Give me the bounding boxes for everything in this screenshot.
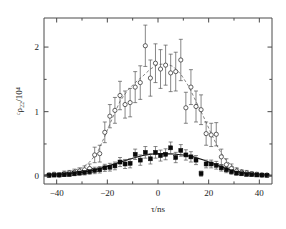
data-point-filled-square	[88, 170, 92, 174]
data-point-filled-square	[240, 172, 244, 176]
data-point-filled-square	[138, 158, 142, 162]
x-axis-tick-label: 20	[204, 188, 214, 198]
plot-frame	[44, 18, 272, 184]
data-point-open-circle	[93, 153, 97, 157]
data-point-filled-square	[250, 173, 254, 177]
x-axis-label: τ/ns	[151, 204, 166, 214]
data-point-open-circle	[209, 133, 213, 137]
x-axis-tick-label: 40	[255, 188, 265, 198]
data-point-filled-square	[93, 168, 97, 172]
data-point-filled-square	[219, 166, 223, 170]
y-axis-tick-label: 0	[35, 171, 40, 181]
data-point-open-circle	[113, 108, 117, 112]
data-point-filled-square	[52, 173, 56, 177]
data-point-open-circle	[103, 130, 107, 134]
data-point-open-circle	[143, 44, 147, 48]
data-point-open-circle	[189, 85, 193, 89]
data-point-filled-square	[204, 162, 208, 166]
data-point-filled-square	[118, 160, 122, 164]
data-point-filled-square	[108, 165, 112, 169]
data-point-filled-square	[164, 152, 168, 156]
data-point-filled-square	[103, 166, 107, 170]
data-point-open-circle	[174, 70, 178, 74]
open-circles-fit	[44, 64, 272, 175]
data-point-open-circle	[164, 63, 168, 67]
data-point-filled-square	[224, 168, 228, 172]
data-point-open-circle	[224, 163, 228, 167]
x-axis-tick-label: 0	[156, 188, 161, 198]
data-point-filled-square	[62, 173, 66, 177]
data-point-open-circle	[123, 102, 127, 106]
data-point-open-circle	[179, 58, 183, 62]
data-point-open-circle	[108, 114, 112, 118]
data-point-filled-square	[148, 157, 152, 161]
data-point-filled-square	[235, 171, 239, 175]
y-axis-tick-label: 1	[35, 107, 40, 117]
chart-canvas: −40−2002040012τ/nsᶜρ₂₂/10⁴	[0, 0, 286, 229]
data-point-filled-square	[199, 172, 203, 176]
data-point-filled-square	[153, 150, 157, 154]
data-point-filled-square	[159, 154, 163, 158]
data-point-filled-square	[67, 172, 71, 176]
y-axis-tick-label: 2	[35, 42, 40, 52]
data-point-filled-square	[113, 164, 117, 168]
data-point-filled-square	[209, 162, 213, 166]
data-points-layer	[47, 44, 269, 178]
data-point-filled-square	[77, 171, 81, 175]
data-point-filled-square	[128, 161, 132, 165]
data-point-filled-square	[245, 172, 249, 176]
data-point-filled-square	[229, 170, 233, 174]
data-point-filled-square	[179, 148, 183, 152]
fit-curves-layer	[44, 64, 272, 175]
data-point-open-circle	[204, 132, 208, 136]
data-point-open-circle	[194, 104, 198, 108]
data-point-open-circle	[128, 101, 132, 105]
data-point-open-circle	[98, 152, 102, 156]
data-point-open-circle	[118, 93, 122, 97]
data-point-filled-square	[143, 150, 147, 154]
data-point-filled-square	[72, 172, 76, 176]
data-point-open-circle	[138, 80, 142, 84]
data-point-filled-square	[133, 152, 137, 156]
axes-layer	[44, 18, 272, 184]
figure-panel: −40−2002040012τ/nsᶜρ₂₂/10⁴ ᶜρ₂₂/10⁴ τ/ns	[0, 0, 286, 229]
data-point-open-circle	[199, 108, 203, 112]
data-point-filled-square	[123, 162, 127, 166]
data-point-filled-square	[98, 168, 102, 172]
y-axis-label: ᶜρ₂₂/10⁴	[14, 87, 24, 115]
x-axis-tick-label: −40	[50, 188, 65, 198]
data-point-open-circle	[214, 132, 218, 136]
data-point-open-circle	[153, 61, 157, 65]
data-point-open-circle	[148, 76, 152, 80]
data-point-filled-square	[57, 173, 61, 177]
data-point-filled-square	[255, 173, 259, 177]
data-point-filled-square	[174, 156, 178, 160]
data-point-filled-square	[214, 163, 218, 167]
data-point-filled-square	[184, 153, 188, 157]
data-point-filled-square	[169, 146, 173, 150]
data-point-open-circle	[133, 85, 137, 89]
data-point-open-circle	[219, 155, 223, 159]
data-point-filled-square	[260, 173, 264, 177]
data-point-filled-square	[189, 155, 193, 159]
data-point-filled-square	[83, 170, 87, 174]
data-point-open-circle	[169, 71, 173, 75]
data-point-filled-square	[194, 158, 198, 162]
x-axis-tick-label: −20	[100, 188, 115, 198]
axis-labels-layer: −40−2002040012τ/nsᶜρ₂₂/10⁴	[14, 42, 264, 214]
data-point-open-circle	[184, 106, 188, 110]
data-point-open-circle	[158, 67, 162, 71]
